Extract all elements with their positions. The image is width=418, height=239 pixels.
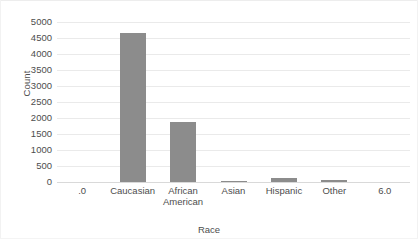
y-axis-tick-label: 500	[14, 161, 52, 171]
gridline	[57, 54, 410, 55]
y-axis-tick-label: 4500	[14, 33, 52, 43]
y-axis-tick-label: 3500	[14, 65, 52, 75]
y-axis-tick-label: 1500	[14, 129, 52, 139]
gridline	[57, 134, 410, 135]
x-axis-title: Race	[0, 224, 418, 235]
bar	[321, 180, 347, 182]
bar	[271, 178, 297, 182]
y-axis-tick-label: 3000	[14, 81, 52, 91]
y-axis-tick-label: 4000	[14, 49, 52, 59]
y-axis-tick-label: 2000	[14, 113, 52, 123]
chart-frame-bottom	[0, 238, 418, 239]
gridline	[57, 38, 410, 39]
bar-chart: Count 5000450040003500300025002000150010…	[0, 0, 418, 239]
y-axis-tick-label: 0	[14, 177, 52, 187]
gridline	[57, 182, 410, 183]
bar	[221, 181, 247, 183]
gridline	[57, 150, 410, 151]
y-axis-tick-label: 1000	[14, 145, 52, 155]
gridline	[57, 102, 410, 103]
plot-area	[57, 22, 410, 182]
gridline	[57, 70, 410, 71]
gridline	[57, 22, 410, 23]
chart-frame-top	[0, 0, 418, 1]
bar	[170, 122, 196, 182]
y-axis-tick-label: 2500	[14, 97, 52, 107]
chart-frame-left	[0, 0, 1, 239]
x-axis-tick-label: 6.0	[352, 186, 418, 197]
gridline	[57, 86, 410, 87]
y-axis-tick-label: 5000	[14, 17, 52, 27]
gridline	[57, 118, 410, 119]
bar	[120, 33, 146, 182]
gridline	[57, 166, 410, 167]
